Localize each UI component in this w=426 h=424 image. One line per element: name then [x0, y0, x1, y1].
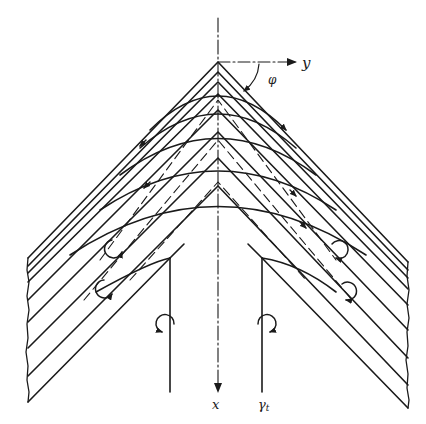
right-edge — [406, 262, 409, 408]
vortex-symbols — [96, 240, 357, 332]
vortex-icon — [258, 315, 276, 332]
vortex-icon — [332, 241, 348, 259]
chevron-vortex-diagram: y φ x γt — [0, 0, 426, 424]
x-axis-label: x — [212, 397, 220, 412]
vortex-icon — [156, 315, 174, 332]
angle-label: φ — [268, 73, 277, 87]
vertical-vortex-lines — [170, 258, 262, 392]
angle-phi-arc — [244, 64, 259, 91]
left-edge — [26, 258, 29, 402]
gamma-label: γt — [258, 397, 270, 413]
y-axis-label: y — [301, 54, 311, 72]
